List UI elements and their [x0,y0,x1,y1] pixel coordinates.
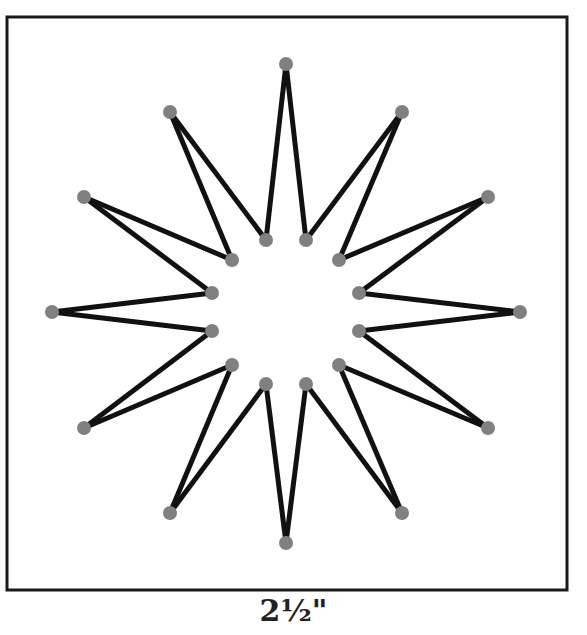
point-dot [259,377,273,391]
point-dot [205,324,219,338]
point-dot [163,105,177,119]
point-dot [299,233,313,247]
star-edge [266,64,286,240]
star-lines [52,64,520,543]
point-dot [225,253,239,267]
point-dot [205,286,219,300]
point-dot [225,358,239,372]
point-dot [45,305,59,319]
star-edge [266,384,286,543]
star-diagram [0,0,587,635]
point-dot [332,253,346,267]
star-edge [286,384,306,543]
point-dot [279,57,293,71]
size-caption: 2½" [0,593,587,628]
point-dot [332,358,346,372]
star-edge [359,312,520,331]
point-dot [513,305,527,319]
point-dot [481,190,495,204]
point-dot [395,506,409,520]
diagram-frame [7,17,567,590]
star-edge [52,312,212,331]
star-edge [359,293,520,312]
point-dot [395,105,409,119]
star-edge [52,293,212,312]
point-dot [77,421,91,435]
point-dot [352,324,366,338]
point-dot [259,233,273,247]
point-dot [299,377,313,391]
point-dot [352,286,366,300]
point-dot [279,536,293,550]
point-dot [77,190,91,204]
point-dot [163,506,177,520]
point-dot [481,421,495,435]
star-edge [286,64,306,240]
